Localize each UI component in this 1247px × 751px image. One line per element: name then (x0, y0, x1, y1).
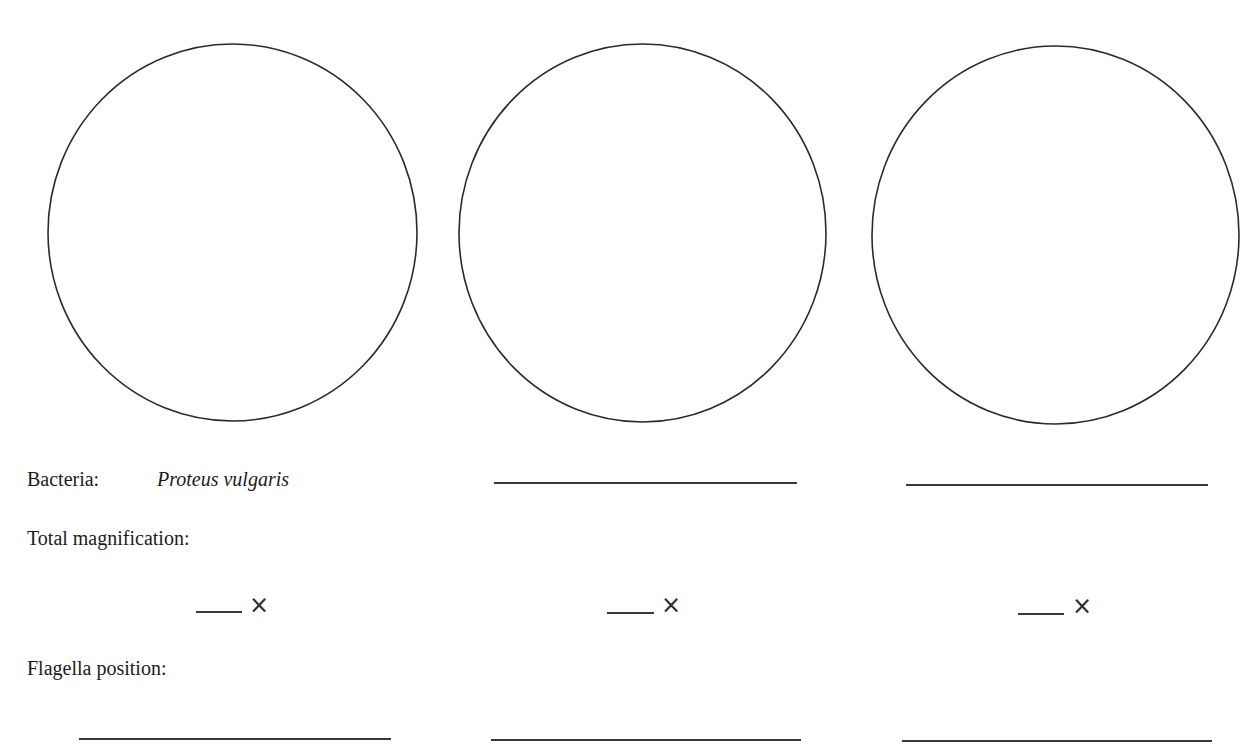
flagella-field-1[interactable] (79, 738, 391, 740)
flagella-field-3[interactable] (902, 740, 1212, 742)
drawing-circle-3[interactable] (872, 46, 1239, 424)
magnification-field-1[interactable] (196, 611, 242, 613)
magnification-field-2[interactable] (607, 612, 654, 614)
magnification-field-3[interactable] (1018, 613, 1064, 615)
bacteria-name-1: Proteus vulgaris (157, 467, 289, 491)
bacteria-label: Bacteria: (27, 467, 99, 491)
drawing-circle-1[interactable] (48, 44, 417, 421)
flagella-label: Flagella position: (27, 656, 166, 680)
times-icon: × (661, 593, 681, 617)
drawing-area (0, 0, 1247, 751)
times-icon: × (1072, 594, 1092, 618)
bacteria-name-field-2[interactable] (494, 482, 797, 484)
times-icon: × (249, 593, 269, 617)
drawing-circle-2[interactable] (459, 44, 826, 422)
flagella-field-2[interactable] (491, 739, 801, 741)
bacteria-name-field-3[interactable] (906, 484, 1208, 486)
magnification-label: Total magnification: (27, 526, 189, 550)
